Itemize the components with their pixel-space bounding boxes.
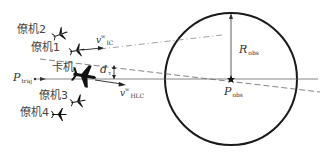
label-velocity-upper: vwIC <box>96 34 113 46</box>
v-lower-subscript: HLC <box>130 92 144 99</box>
p-traj-symbol: P <box>13 71 20 84</box>
v-upper-superscript: w <box>101 33 105 39</box>
traj-arrow-icon <box>40 77 46 81</box>
wingman1-aircraft-icon <box>68 43 86 59</box>
v-upper-subscript: IC <box>106 39 113 46</box>
p-obs-symbol: P <box>224 85 231 98</box>
v-lower-superscript: w <box>125 86 129 92</box>
formation-obstacle-diagram <box>0 0 328 154</box>
label-r-obs: Robs <box>239 44 259 56</box>
label-wingman1: 僚机1 <box>31 42 60 53</box>
p-obs-subscript: obs <box>232 91 243 98</box>
d-offset-arrow-down-icon <box>112 75 116 79</box>
velocity-arrowhead-upper-icon <box>98 46 104 51</box>
d-offset-arrow-up-icon <box>112 65 116 69</box>
label-p-obs: Pobs <box>224 86 243 98</box>
label-p-traj: Ptraj <box>13 72 32 84</box>
velocity-arrow-lower <box>95 80 122 84</box>
r-obs-symbol: R <box>239 43 247 56</box>
r-obs-subscript: obs <box>248 49 259 56</box>
d-symbol: d <box>100 63 107 76</box>
wingman4-aircraft-icon <box>51 108 67 121</box>
wingman3-aircraft-icon <box>69 94 87 110</box>
d-subscript: τ <box>108 69 111 76</box>
label-wingman3: 僚机3 <box>39 90 68 101</box>
label-lead: 卡机 <box>52 62 74 73</box>
traj-point-icon <box>34 78 36 80</box>
p-traj-subscript: traj <box>21 77 32 84</box>
lead-aircraft-icon <box>70 63 98 89</box>
label-wingman2: 僚机2 <box>17 24 46 35</box>
label-d-tau: dτ <box>100 64 111 76</box>
label-wingman4: 僚机4 <box>20 107 49 118</box>
tangent-dashed-line-upper <box>100 35 222 49</box>
label-velocity-lower: vwHLC <box>120 87 144 99</box>
